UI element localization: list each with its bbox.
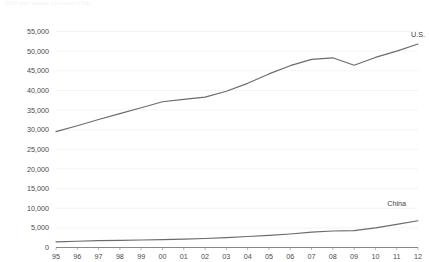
series-line-china [56, 221, 418, 242]
x-axis-tick-label: 03 [222, 252, 230, 261]
series-label-china: China [387, 199, 406, 208]
y-axis-tick-label: 40,000 [27, 86, 49, 95]
series-line-us [56, 44, 418, 132]
x-axis-tick-label: 99 [137, 252, 145, 261]
x-axis-tick-label: 10 [371, 252, 379, 261]
x-axis-tick-label: 11 [393, 252, 400, 261]
y-axis-tick-label: 50,000 [27, 47, 49, 56]
x-axis-tick-label: 07 [308, 252, 316, 261]
x-axis-tick-labels: 959697989900010203040506070809101112 [52, 252, 422, 261]
x-axis-tick-label: 97 [95, 252, 103, 261]
y-axis-tick-label: 10,000 [27, 204, 49, 213]
y-axis-tick-label: 35,000 [27, 106, 49, 115]
x-axis-tick-label: 12 [414, 252, 422, 261]
y-axis-tick-label: 25,000 [27, 145, 49, 154]
x-axis-tick-label: 06 [286, 252, 294, 261]
chart-canvas: 05,00010,00015,00020,00025,00030,00035,0… [0, 0, 429, 262]
x-axis-tick-label: 01 [180, 252, 188, 261]
y-axis-tick-label: 55,000 [27, 27, 49, 36]
series-label-us: U.S. [411, 30, 425, 39]
y-axis-tick-label: 15,000 [27, 184, 49, 193]
y-axis-tick-labels: 05,00010,00015,00020,00025,00030,00035,0… [27, 27, 49, 252]
x-axis-tick-label: 08 [329, 252, 337, 261]
y-axis-tick-label: 20,000 [27, 165, 49, 174]
y-axis-tick-label: 5,000 [31, 223, 49, 232]
x-axis-tick-label: 98 [116, 252, 124, 261]
gridlines-group [56, 32, 418, 228]
x-axis-tick-label: 05 [265, 252, 273, 261]
y-axis-tick-label: 30,000 [27, 125, 49, 134]
y-axis-tick-label: 0 [45, 243, 49, 252]
gdp-per-capita-chart: GDP per capita (current US$) 05,00010,00… [0, 0, 429, 262]
x-axis-tick-label: 00 [158, 252, 166, 261]
x-axis-tick-label: 95 [52, 252, 60, 261]
y-axis-tick-label: 45,000 [27, 66, 49, 75]
x-axis-tick-label: 96 [73, 252, 81, 261]
x-axis-tick-label: 09 [350, 252, 358, 261]
x-axis-tick-label: 02 [201, 252, 209, 261]
series-labels-group: U.S.China [387, 30, 425, 208]
x-axis-tick-label: 04 [244, 252, 252, 261]
series-lines-group [56, 44, 418, 242]
